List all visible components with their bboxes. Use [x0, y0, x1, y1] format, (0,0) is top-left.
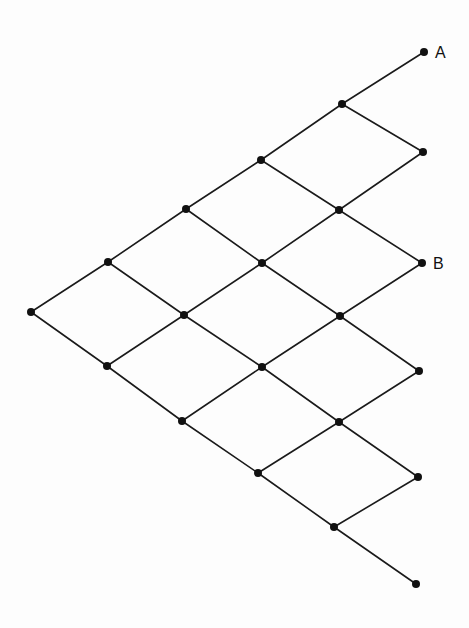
node-dot: [182, 205, 190, 213]
node-dot: [258, 259, 266, 267]
edge-n4-n8: [184, 315, 262, 367]
node-dot: [103, 362, 111, 370]
edge-n10-n16: [342, 104, 423, 152]
edge-n1-n3: [108, 209, 186, 262]
edge-n12-n18: [340, 316, 419, 371]
edge-n13-n18: [339, 371, 419, 422]
edge-n5-n8: [182, 367, 262, 421]
edge-n4-n7: [184, 263, 262, 315]
node-dot: [419, 148, 427, 156]
node-dot: [27, 308, 35, 316]
lattice-diagram: AB: [0, 0, 469, 628]
node-dot: [414, 473, 422, 481]
edge-n6-n10: [261, 104, 342, 160]
label-b: B: [433, 255, 444, 272]
node-dot: [330, 523, 338, 531]
node-dot: [178, 417, 186, 425]
edge-n0-n2: [31, 312, 107, 366]
node-dot: [335, 206, 343, 214]
edge-n9-n14: [258, 473, 334, 527]
edge-n13-n19: [339, 422, 418, 477]
node-b: [418, 259, 426, 267]
edge-n2-n5: [107, 366, 182, 421]
edge-n9-n13: [258, 422, 339, 473]
edge-n0-n1: [31, 262, 108, 312]
label-a: A: [435, 44, 446, 61]
node-a: [420, 48, 428, 56]
edge-n6-n11: [261, 160, 339, 210]
edge-n8-n13: [262, 367, 339, 422]
edge-n2-n4: [107, 315, 184, 366]
edge-group: [31, 52, 424, 584]
node-dot: [258, 363, 266, 371]
edge-n12-B: [340, 263, 422, 316]
node-dot: [338, 100, 346, 108]
edge-n8-n12: [262, 316, 340, 367]
edge-n5-n9: [182, 421, 258, 473]
node-dot: [336, 312, 344, 320]
edge-n11-n16: [339, 152, 423, 210]
edge-n7-n11: [262, 210, 339, 263]
label-group: AB: [433, 44, 446, 272]
edge-n1-n4: [108, 262, 184, 315]
edge-n3-n7: [186, 209, 262, 263]
edge-n7-n12: [262, 263, 340, 316]
edge-n3-n6: [186, 160, 261, 209]
node-dot: [335, 418, 343, 426]
edge-n10-A: [342, 52, 424, 104]
edge-n14-n20: [334, 527, 416, 584]
node-dot: [257, 156, 265, 164]
node-dot: [254, 469, 262, 477]
edge-n14-n19: [334, 477, 418, 527]
node-dot: [180, 311, 188, 319]
node-dot: [104, 258, 112, 266]
node-dot: [415, 367, 423, 375]
node-dot: [412, 580, 420, 588]
edge-n11-B: [339, 210, 422, 263]
